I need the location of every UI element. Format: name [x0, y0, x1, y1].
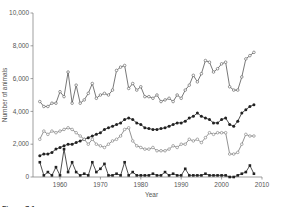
data-point — [236, 151, 239, 154]
data-point — [236, 89, 239, 92]
data-point — [176, 146, 179, 149]
data-point — [67, 127, 70, 130]
data-point — [148, 95, 151, 98]
data-point — [204, 172, 207, 175]
data-point — [131, 118, 134, 121]
series-line — [40, 52, 254, 106]
data-point — [241, 76, 244, 79]
data-point — [245, 133, 248, 136]
data-point — [220, 131, 223, 134]
data-point — [115, 138, 118, 141]
series-layer — [38, 51, 255, 178]
data-point — [63, 95, 66, 98]
data-point — [168, 97, 171, 100]
y-tick-label: 6,000 — [13, 75, 30, 82]
data-point — [67, 143, 70, 146]
data-point — [184, 120, 187, 123]
data-point — [216, 67, 219, 70]
data-point — [196, 81, 199, 84]
data-point — [200, 72, 203, 75]
series-3 — [39, 148, 256, 178]
data-point — [87, 174, 90, 177]
data-point — [192, 74, 195, 77]
data-point — [208, 118, 211, 121]
data-point — [160, 100, 163, 103]
data-point — [127, 127, 130, 130]
data-point — [176, 121, 179, 124]
data-point — [47, 133, 50, 136]
data-point — [184, 143, 187, 146]
data-point — [192, 174, 195, 177]
data-point — [172, 145, 175, 148]
data-point — [228, 86, 231, 89]
data-point — [232, 153, 235, 156]
data-point — [212, 133, 215, 136]
data-point — [75, 141, 78, 144]
data-point — [180, 97, 183, 100]
data-point — [51, 174, 54, 177]
data-point — [127, 116, 130, 119]
x-tick-label: 1970 — [93, 181, 108, 188]
data-point — [147, 127, 150, 130]
data-point — [249, 135, 252, 138]
x-tick-label: 2000 — [214, 181, 229, 188]
data-point — [103, 128, 106, 131]
data-point — [160, 127, 163, 130]
data-point — [253, 135, 256, 138]
data-point — [224, 174, 227, 177]
data-point — [135, 89, 138, 92]
data-point — [180, 174, 183, 177]
data-point — [180, 143, 183, 146]
data-point — [188, 138, 191, 141]
data-point — [168, 148, 171, 151]
data-point — [156, 174, 159, 177]
data-point — [208, 61, 211, 64]
y-ticks: 02,0004,0006,0008,00010,000 — [9, 9, 33, 180]
data-point — [200, 115, 203, 118]
data-point — [131, 82, 134, 85]
data-point — [71, 143, 74, 146]
data-point — [208, 174, 211, 177]
data-point — [208, 131, 211, 134]
data-point — [168, 125, 171, 128]
data-point — [39, 100, 42, 103]
data-point — [241, 143, 244, 146]
data-point — [119, 174, 122, 177]
data-point — [220, 174, 223, 177]
data-point — [188, 116, 191, 119]
data-point — [43, 174, 46, 177]
data-point — [135, 145, 138, 148]
data-point — [63, 128, 66, 131]
data-point — [115, 69, 118, 72]
line-chart: 02,0004,0006,0008,00010,000 196019701980… — [0, 0, 282, 207]
data-point — [63, 144, 66, 147]
data-point — [140, 174, 143, 177]
data-point — [127, 174, 130, 177]
data-point — [83, 172, 86, 175]
data-point — [228, 123, 231, 126]
data-point — [144, 95, 147, 98]
data-point — [192, 115, 195, 118]
y-tick-label: 10,000 — [9, 9, 29, 16]
data-point — [39, 161, 42, 164]
data-point — [103, 146, 106, 149]
data-point — [156, 149, 159, 152]
axes — [33, 13, 262, 177]
data-point — [71, 161, 74, 164]
data-point — [224, 131, 227, 134]
data-point — [95, 171, 98, 174]
data-point — [67, 171, 70, 174]
y-tick-label: 0 — [25, 173, 29, 180]
data-point — [55, 131, 58, 134]
data-point — [115, 123, 118, 126]
data-point — [200, 174, 203, 177]
data-point — [123, 64, 126, 67]
data-point — [79, 102, 82, 105]
series-0 — [39, 51, 256, 108]
data-point — [50, 151, 53, 154]
data-point — [220, 63, 223, 66]
data-point — [236, 174, 239, 177]
data-point — [232, 125, 235, 128]
series-2 — [39, 127, 256, 156]
data-point — [248, 105, 251, 108]
